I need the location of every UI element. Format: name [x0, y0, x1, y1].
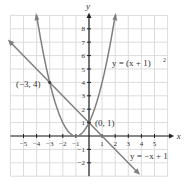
intersection-point: [48, 81, 51, 84]
x-axis-arrow-icon: [169, 134, 174, 139]
x-tick-label: 1: [100, 140, 104, 148]
line-label: y = −x + 1: [130, 151, 168, 161]
arrow-icon: [113, 13, 118, 21]
y-axis-label: y: [85, 1, 90, 11]
y-tick-label: 1: [82, 119, 86, 127]
y-tick-label: 5: [82, 66, 86, 74]
x-tick-label: −2: [59, 140, 67, 148]
x-tick-label: 2: [113, 140, 117, 148]
x-tick-label: 4: [140, 140, 144, 148]
y-tick-label: 7: [82, 39, 86, 47]
labels: −5−4−3−2−11234587654321−1−2xyy = (x + 1)…: [16, 1, 181, 168]
x-tick-label: −3: [46, 140, 54, 148]
y-tick-label: 2: [82, 106, 86, 114]
x-axis-label: x: [176, 131, 181, 141]
x-tick-label: 5: [153, 140, 157, 148]
intersection-point: [87, 121, 90, 124]
x-tick-label: −5: [20, 140, 28, 148]
y-tick-label: −1: [78, 146, 86, 154]
y-tick-label: 8: [82, 25, 86, 33]
curves: [8, 13, 140, 175]
y-tick-label: 6: [82, 52, 86, 60]
y-tick-label: −2: [78, 159, 86, 167]
x-tick-label: 3: [127, 140, 131, 148]
graph: −5−4−3−2−11234587654321−1−2xyy = (x + 1)…: [0, 0, 189, 186]
y-tick-label: 4: [82, 79, 86, 87]
x-tick-label: −4: [33, 140, 41, 148]
point-label: (−3, 4): [16, 79, 41, 89]
parabola-label: y = (x + 1): [112, 58, 151, 68]
point-label: (0, 1): [95, 118, 115, 128]
parabola-label-exponent: 2: [163, 57, 166, 63]
arrow-icon: [35, 13, 40, 21]
y-tick-label: 3: [82, 92, 86, 100]
